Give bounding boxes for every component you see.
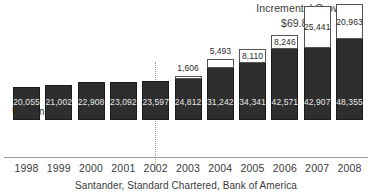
x-axis-label-2008: 2008 <box>336 162 363 174</box>
bar-2008-growth-segment: 20,963 <box>336 4 363 39</box>
bar-2004-base-value: 31,242 <box>207 97 234 107</box>
bar-2008-base-segment: 48,355 <box>336 39 363 120</box>
bar-2006-growth-value: 8,246 <box>274 37 296 47</box>
bar-2006-base-value: 42,571 <box>272 97 299 107</box>
x-axis-label-1999: 1999 <box>45 162 72 174</box>
bar-2005: 8,11034,341 <box>239 49 266 120</box>
bar-2006-growth-segment: 8,246 <box>271 35 298 49</box>
bar-2008: 20,96348,355 <box>336 4 363 120</box>
bar-2006: 8,24642,571 <box>271 35 298 120</box>
bar-2002-base-segment: 23,597 <box>142 81 169 120</box>
x-axis-label-1998: 1998 <box>13 162 40 174</box>
bar-2003: 1,60624,812 <box>175 76 202 120</box>
bar-2000-base-segment: 22,908 <box>78 82 105 120</box>
bar-1998: 20,055 <box>13 87 40 120</box>
x-axis-label-2003: 2003 <box>175 162 202 174</box>
bar-2007-base-segment: 42,907 <box>304 48 331 120</box>
bar-2005-growth-value: 8,110 <box>242 51 263 61</box>
x-axis-label-2006: 2006 <box>271 162 298 174</box>
bar-1999: 21,002 <box>45 85 72 120</box>
bar-2004-growth-segment: 5,493 <box>207 59 234 68</box>
bar-2001-base-segment: 23,092 <box>110 82 137 120</box>
bar-1998-base-segment: 20,055 <box>13 87 40 120</box>
incremental-growth-chart: Incremental Growth $69.87bn US$ million … <box>0 0 372 195</box>
bar-2004: 5,49331,242 <box>207 59 234 120</box>
bar-2008-growth-value: 20,963 <box>336 17 363 27</box>
bar-2005-growth-segment: 8,110 <box>239 49 266 63</box>
bar-2005-base-value: 34,341 <box>239 97 266 107</box>
bar-1999-base-segment: 21,002 <box>45 85 72 120</box>
x-axis-baseline <box>4 157 368 158</box>
bar-2003-growth-value: 1,606 <box>177 63 198 73</box>
bar-2004-base-segment: 31,242 <box>207 68 234 120</box>
bar-2000-base-value: 22,908 <box>78 97 105 107</box>
bar-2000: 22,908 <box>78 82 105 120</box>
x-axis-label-2000: 2000 <box>78 162 105 174</box>
bar-2007-base-value: 42,907 <box>304 97 331 107</box>
bar-2001: 23,092 <box>110 82 137 120</box>
x-axis-label-2004: 2004 <box>207 162 234 174</box>
x-axis-label-2007: 2007 <box>304 162 331 174</box>
bar-1999-base-value: 21,002 <box>46 97 73 107</box>
plot-area: 20,05521,00222,90823,09223,5971,60624,81… <box>0 0 372 158</box>
bar-2007: 25,44142,907 <box>304 6 331 120</box>
x-axis-label-2001: 2001 <box>110 162 137 174</box>
bar-2002: 23,597 <box>142 81 169 120</box>
bar-2005-base-segment: 34,341 <box>239 63 266 120</box>
bar-2001-base-value: 23,092 <box>110 97 137 107</box>
x-axis-label-2005: 2005 <box>239 162 266 174</box>
bar-2006-base-segment: 42,571 <box>271 49 298 120</box>
bar-2008-base-value: 48,355 <box>336 97 363 107</box>
chart-caption: Santander, Standard Chartered, Bank of A… <box>0 180 372 191</box>
bar-2004-growth-value: 5,493 <box>210 46 231 56</box>
bar-2007-growth-value: 25,441 <box>304 22 331 32</box>
bar-2003-base-segment: 24,812 <box>175 79 202 120</box>
bar-2007-growth-segment: 25,441 <box>304 6 331 48</box>
bar-2003-base-value: 24,812 <box>175 97 202 107</box>
bar-1998-base-value: 20,055 <box>13 97 40 107</box>
bar-2002-base-value: 23,597 <box>142 97 169 107</box>
x-axis-label-2002: 2002 <box>142 162 169 174</box>
